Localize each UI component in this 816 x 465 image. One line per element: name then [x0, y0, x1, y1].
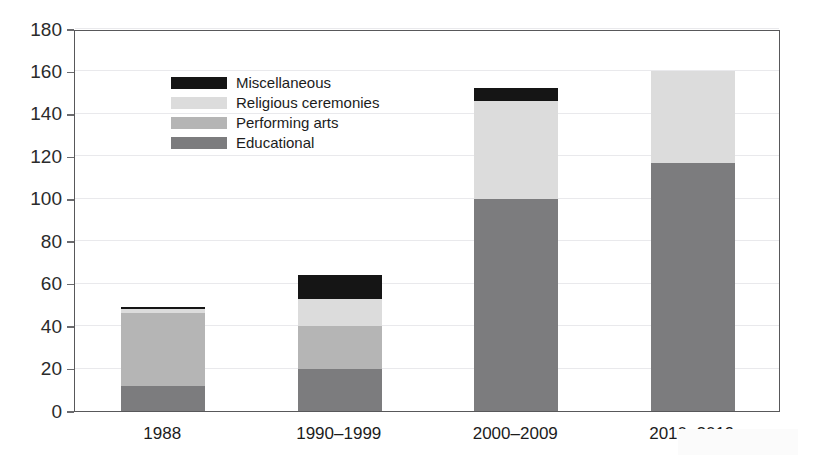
x-axis-tick-label: 1988 [143, 424, 181, 444]
plot-area: MiscellaneousReligious ceremoniesPerform… [74, 30, 780, 412]
x-axis: 19881990–19992000–20092010–2019 [74, 412, 780, 462]
y-axis-tick-mark [67, 157, 74, 159]
legend-item[interactable]: Religious ceremonies [171, 93, 381, 112]
y-axis-tick-mark [67, 199, 74, 201]
legend-swatch [171, 117, 227, 129]
bar-segment[interactable] [651, 71, 735, 162]
x-axis-tick-label: 2010–2019 [649, 424, 734, 444]
legend-item-label: Miscellaneous [236, 75, 331, 90]
bar-segment[interactable] [474, 88, 558, 101]
legend-item-label: Educational [236, 135, 314, 150]
bar-segment[interactable] [298, 326, 382, 368]
bar-segment[interactable] [651, 163, 735, 411]
legend-swatch [171, 97, 227, 109]
y-axis-tick-label: 0 [51, 402, 62, 421]
y-axis: 020406080100120140160180 [0, 30, 74, 412]
y-axis-tick-mark [67, 326, 74, 328]
y-axis-tick-label: 40 [41, 317, 62, 336]
bar-segment[interactable] [474, 101, 558, 199]
y-axis-tick-label: 160 [30, 62, 62, 81]
bar-segment[interactable] [298, 369, 382, 411]
legend-swatch [171, 77, 227, 89]
x-axis-tick-label: 2000–2009 [473, 424, 558, 444]
y-axis-tick-label: 180 [30, 20, 62, 39]
bar-segment[interactable] [298, 275, 382, 298]
bar-group[interactable] [474, 29, 558, 411]
y-axis-tick-label: 80 [41, 232, 62, 251]
y-axis-tick-label: 140 [30, 104, 62, 123]
y-axis-tick-label: 60 [41, 274, 62, 293]
y-axis-tick-mark [67, 29, 74, 31]
stacked-bar-chart: 020406080100120140160180 MiscellaneousRe… [0, 0, 816, 465]
y-axis-tick-mark [67, 284, 74, 286]
bar-segment[interactable] [121, 386, 205, 411]
y-axis-tick-label: 100 [30, 189, 62, 208]
bar-segment[interactable] [474, 199, 558, 411]
y-axis-tick-mark [67, 114, 74, 116]
y-axis-tick-mark [67, 369, 74, 371]
bar-segment[interactable] [121, 313, 205, 385]
y-axis-tick-label: 20 [41, 359, 62, 378]
bar-group[interactable] [651, 29, 735, 411]
y-axis-tick-mark [67, 411, 74, 413]
bar-segment[interactable] [121, 309, 205, 313]
legend-item[interactable]: Miscellaneous [171, 73, 381, 92]
y-axis-tick-mark [67, 241, 74, 243]
bar-segment[interactable] [298, 299, 382, 327]
legend-item-label: Performing arts [236, 115, 339, 130]
legend-swatch [171, 137, 227, 149]
legend-item[interactable]: Educational [171, 133, 381, 152]
legend-item-label: Religious ceremonies [236, 95, 379, 110]
x-axis-tick-label: 1990–1999 [296, 424, 381, 444]
bar-segment[interactable] [121, 307, 205, 309]
legend-item[interactable]: Performing arts [171, 113, 381, 132]
y-axis-tick-mark [67, 72, 74, 74]
chart-legend: MiscellaneousReligious ceremoniesPerform… [171, 73, 381, 153]
y-axis-tick-label: 120 [30, 147, 62, 166]
